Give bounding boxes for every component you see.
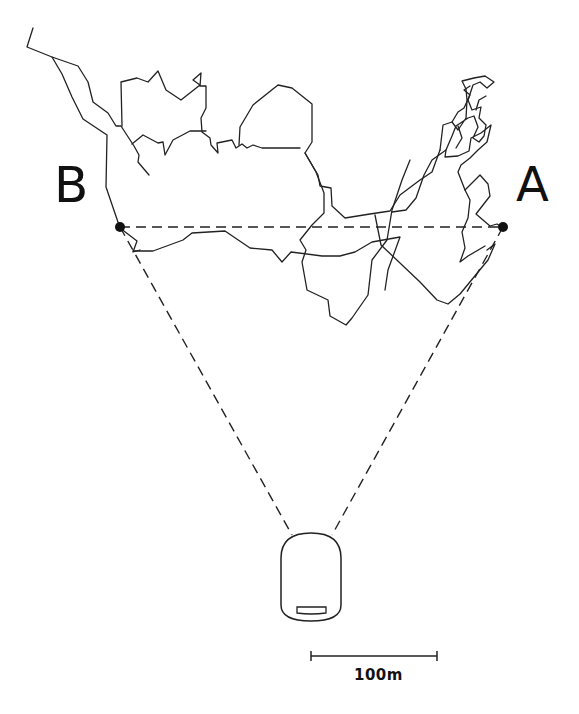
trajectory-right-cluster (375, 215, 495, 304)
diagram-canvas (0, 0, 579, 714)
point-a-marker (498, 222, 508, 232)
scale-bar-label: 100m (354, 666, 403, 684)
trajectory-loop-upper-left (121, 71, 300, 153)
sight-line-to-b (120, 227, 292, 535)
trajectory-path-b-approach (52, 57, 140, 252)
trajectory-center-descent (300, 153, 410, 325)
trajectory-right-descent (465, 175, 503, 228)
scale-bar (311, 651, 437, 661)
trajectory-loop-left-bottom (132, 131, 206, 155)
trajectory-lower-mid (133, 231, 400, 290)
trajectory-path-left (27, 28, 149, 175)
sight-line-to-a (332, 227, 503, 535)
point-b-marker (115, 222, 125, 232)
point-a-label: A (516, 160, 549, 208)
trajectory-right-scribble (440, 76, 494, 262)
observer-housing-icon (281, 533, 341, 621)
trajectory-loop-top-center (239, 85, 440, 218)
point-b-label: B (54, 160, 88, 210)
